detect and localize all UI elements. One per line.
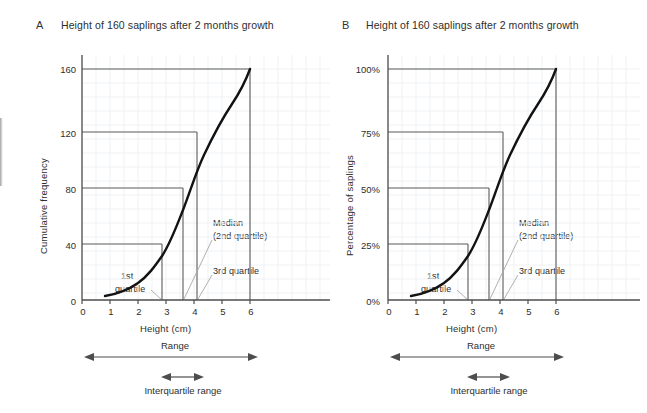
- panel-b-ogive-curve: [411, 69, 556, 296]
- panel-b-plot: [330, 0, 647, 413]
- panel-b-minor-grid: [388, 55, 640, 300]
- panel-a-ogive-curve: [105, 69, 250, 296]
- panel-a-plot: [0, 0, 330, 413]
- panel-a-leader-lines: [151, 240, 212, 300]
- panel-a: A Height of 160 saplings after 2 months …: [0, 0, 330, 413]
- panel-b-range-arrow: [390, 353, 564, 361]
- panel-a-minor-grid: [82, 55, 330, 300]
- panel-b-iqr-arrow: [467, 373, 510, 381]
- cumulative-frequency-figure: A Height of 160 saplings after 2 months …: [0, 0, 647, 413]
- panel-b: B Height of 160 saplings after 2 months …: [330, 0, 647, 413]
- panel-a-range-arrow: [84, 353, 258, 361]
- panel-a-iqr-arrow: [161, 373, 204, 381]
- panel-b-leader-lines: [457, 240, 518, 300]
